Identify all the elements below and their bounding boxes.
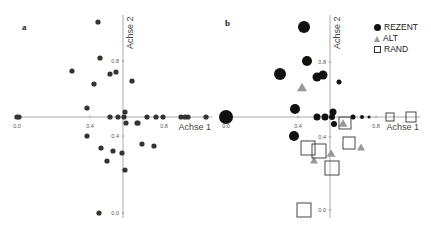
data-point xyxy=(104,158,109,163)
legend-item-rezent: REZENT xyxy=(374,22,418,33)
legend-item-alt: ALT xyxy=(374,33,418,44)
data-point-rezent xyxy=(330,109,337,116)
data-point-alt xyxy=(339,119,348,127)
data-point-rand xyxy=(343,137,355,149)
data-point-rezent xyxy=(360,115,364,119)
data-point xyxy=(160,114,165,119)
data-point xyxy=(122,167,127,172)
circle-marker-icon xyxy=(374,24,381,31)
data-point-alt xyxy=(357,144,365,151)
legend-label: RAND xyxy=(384,44,408,55)
data-point-rezent xyxy=(337,80,342,85)
data-point xyxy=(203,114,208,119)
y-tick-label: 0.0 xyxy=(111,210,119,216)
data-point xyxy=(121,114,126,119)
y-axis-label: Achse 2 xyxy=(332,16,342,49)
data-point xyxy=(16,114,21,119)
data-point-rezent xyxy=(314,114,321,121)
x-tick-label: 0.4 xyxy=(86,123,94,129)
data-point xyxy=(144,114,149,119)
x-axis-label: Achse 1 xyxy=(178,122,211,132)
data-point xyxy=(96,210,101,215)
x-tick-label: 0.8 xyxy=(372,123,380,129)
data-point-alt xyxy=(297,83,307,92)
data-point-rand xyxy=(312,144,326,158)
data-point xyxy=(107,114,112,119)
data-point xyxy=(151,143,156,148)
y-tick-label: 0.8 xyxy=(111,58,119,64)
legend-label: ALT xyxy=(383,33,398,44)
data-point xyxy=(98,145,103,150)
data-point xyxy=(139,141,144,146)
x-axis-label: Achse 1 xyxy=(386,122,419,132)
y-tick-label: 0.8 xyxy=(318,59,326,65)
square-marker-icon xyxy=(374,46,381,53)
data-point xyxy=(122,109,127,114)
data-point xyxy=(135,120,140,125)
x-tick-label: 0.0 xyxy=(13,123,21,129)
triangle-marker-icon xyxy=(374,36,380,42)
data-point xyxy=(110,148,115,153)
y-tick-label: 0.4 xyxy=(318,134,326,140)
axes: 0.00.40.80.80.40.0Achse 1Achse 20.00.40.… xyxy=(13,15,420,218)
data-point-rezent xyxy=(298,21,310,33)
data-point-rezent xyxy=(322,114,329,121)
data-point xyxy=(95,19,100,24)
x-tick-label: 0.8 xyxy=(160,123,168,129)
data-points xyxy=(14,19,416,217)
ordination-chart: 0.00.40.80.80.40.0Achse 1Achse 20.00.40.… xyxy=(0,0,431,229)
y-tick-label: 0.4 xyxy=(111,133,119,139)
data-point-rezent xyxy=(331,121,337,127)
data-point xyxy=(115,114,120,119)
panel-label-a: a xyxy=(22,22,27,32)
x-tick-label: 0.4 xyxy=(294,123,302,129)
y-tick-label: 0.0 xyxy=(318,207,326,213)
data-point xyxy=(91,81,96,86)
data-point xyxy=(113,69,118,74)
data-point-rezent xyxy=(302,56,312,66)
legend: REZENT ALT RAND xyxy=(374,22,418,55)
data-point-rezent xyxy=(219,110,233,124)
data-point xyxy=(107,71,112,76)
data-point xyxy=(84,133,89,138)
data-point-rand xyxy=(325,161,339,175)
y-axis-label: Achse 2 xyxy=(125,16,135,49)
legend-item-rand: RAND xyxy=(374,44,418,55)
data-point xyxy=(119,150,124,155)
data-point xyxy=(129,78,134,83)
data-point xyxy=(84,105,89,110)
data-point-rezent xyxy=(368,116,371,119)
data-point-rezent xyxy=(319,71,328,80)
data-point xyxy=(185,114,190,119)
data-point-rezent xyxy=(290,104,300,114)
data-point xyxy=(69,68,74,73)
data-point-rezent xyxy=(289,131,299,141)
data-point-rezent xyxy=(274,68,286,80)
data-point-rand xyxy=(301,141,315,155)
data-point xyxy=(123,120,128,125)
data-point-alt xyxy=(327,149,336,157)
panel-label-b: b xyxy=(225,18,230,28)
data-point xyxy=(97,55,102,60)
data-point xyxy=(153,114,158,119)
data-point-rand xyxy=(297,203,311,217)
legend-label: REZENT xyxy=(384,22,418,33)
